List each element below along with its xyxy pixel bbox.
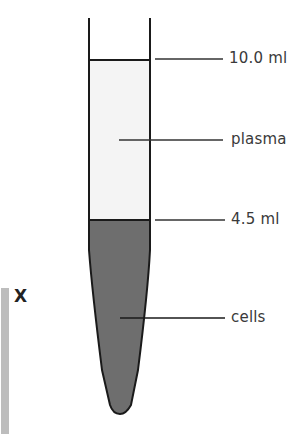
label-boundary-level: 4.5 ml [231, 210, 280, 228]
cells-region [89, 220, 150, 414]
label-top-level: 10.0 ml [229, 49, 287, 67]
label-plasma: plasma [231, 130, 287, 148]
label-cells: cells [231, 308, 266, 326]
